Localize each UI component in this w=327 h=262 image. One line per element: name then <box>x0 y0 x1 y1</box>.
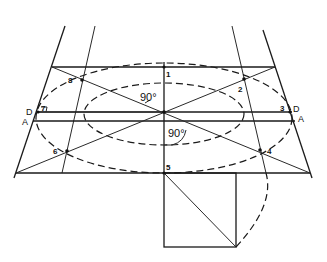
point-8-dot <box>80 78 84 82</box>
label-point-3: 3 <box>280 104 285 113</box>
square-diagonal <box>164 173 236 247</box>
label-left-a: A <box>22 117 28 127</box>
point-6-dot <box>65 149 69 153</box>
center-dot <box>162 110 166 114</box>
label-point-5: 5 <box>166 163 171 172</box>
label-angle-upper: 90° <box>140 91 157 103</box>
label-right-d: D <box>293 104 300 114</box>
point-4-dot <box>258 148 262 152</box>
label-left-d: D <box>26 107 33 117</box>
label-point-6: 6 <box>53 147 58 156</box>
label-point-8: 8 <box>68 76 73 85</box>
perspective-circle-diagram: 1 2 3 4 5 6 7 8 D A D A 90° 90° <box>0 0 327 262</box>
label-angle-lower: 90° <box>168 127 185 139</box>
label-point-1: 1 <box>166 70 171 79</box>
label-point-4: 4 <box>267 147 272 156</box>
label-point-2: 2 <box>238 85 243 94</box>
point-2-dot <box>242 77 246 81</box>
label-point-7: 7 <box>41 104 46 113</box>
point-1-dot <box>162 65 165 68</box>
diagonal-top-left-to-bottom-right <box>52 67 310 173</box>
point-3-dot <box>288 110 291 113</box>
transfer-arc <box>236 173 268 247</box>
label-right-a: A <box>298 114 304 124</box>
point-7-dot <box>36 110 39 113</box>
diagonal-top-right-to-bottom-left <box>16 67 275 173</box>
